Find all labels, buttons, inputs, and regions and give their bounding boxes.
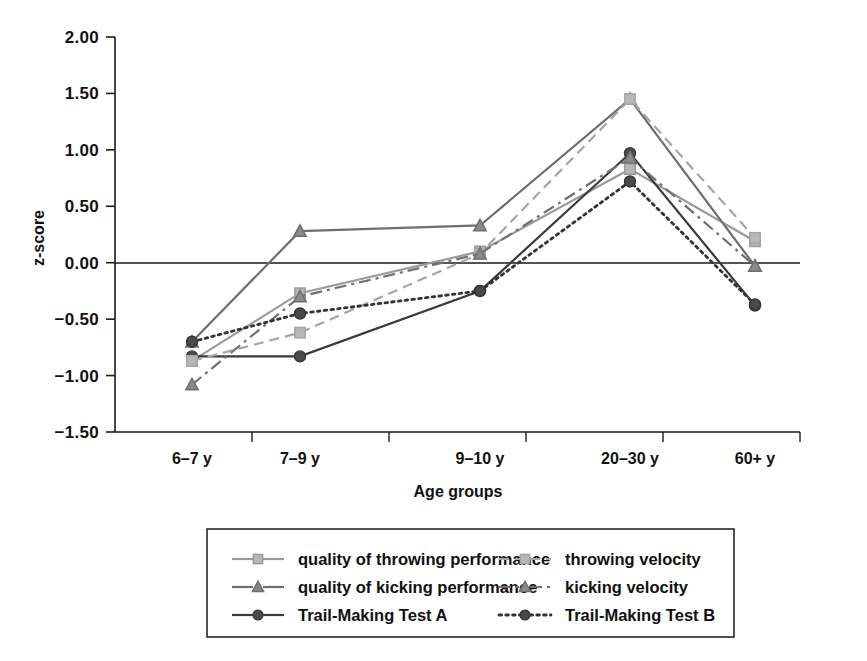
data-point-square bbox=[625, 94, 635, 104]
y-tick-label: 0.00 bbox=[65, 254, 99, 273]
series-line bbox=[192, 169, 755, 361]
data-point-circle bbox=[750, 299, 761, 310]
chart-plot-area: 2.001.501.000.500.00−0.50−1.00−1.50 6–7 … bbox=[0, 0, 867, 520]
data-point-square bbox=[520, 554, 529, 563]
z-score-line-chart: 2.001.501.000.500.00−0.50−1.00−1.50 6–7 … bbox=[0, 0, 867, 520]
data-point-circle bbox=[295, 351, 306, 362]
data-point-square bbox=[750, 233, 760, 243]
data-point-square bbox=[253, 554, 262, 563]
y-tick-label: 1.00 bbox=[65, 141, 99, 160]
y-axis-ticks bbox=[106, 37, 115, 432]
legend-label: throwing velocity bbox=[565, 550, 702, 568]
data-point-circle bbox=[253, 610, 263, 620]
figure-container: 2.001.501.000.500.00−0.50−1.00−1.50 6–7 … bbox=[0, 0, 867, 661]
legend-label: Trail-Making Test B bbox=[565, 606, 715, 624]
y-tick-label: 1.50 bbox=[65, 84, 99, 103]
legend-entries: quality of throwing performancethrowing … bbox=[232, 550, 715, 624]
y-tick-label: 0.50 bbox=[65, 197, 99, 216]
series-line bbox=[192, 158, 755, 385]
y-tick-label: 2.00 bbox=[65, 28, 99, 47]
legend-entry[interactable]: Trail-Making Test A bbox=[232, 606, 448, 624]
data-point-circle bbox=[187, 336, 198, 347]
legend-label: quality of throwing performance bbox=[298, 550, 550, 568]
x-tick-label: 9–10 y bbox=[456, 450, 505, 467]
data-point-square bbox=[295, 327, 305, 337]
series-5 bbox=[187, 176, 761, 347]
y-tick-label: −1.00 bbox=[54, 367, 99, 386]
x-tick-label: 20–30 y bbox=[601, 450, 659, 467]
y-tick-label: −1.50 bbox=[54, 423, 99, 442]
series-line bbox=[192, 181, 755, 341]
x-tick-label: 7–9 y bbox=[280, 450, 320, 467]
y-axis-title: z-score bbox=[30, 210, 47, 266]
data-point-circle bbox=[625, 176, 636, 187]
series-layer bbox=[186, 93, 761, 390]
series-4 bbox=[186, 152, 761, 390]
data-point-triangle bbox=[252, 581, 263, 591]
series-1 bbox=[186, 93, 761, 347]
legend-entry[interactable]: Trail-Making Test B bbox=[499, 606, 715, 624]
legend-entry[interactable]: quality of kicking performance bbox=[232, 578, 537, 596]
data-point-circle bbox=[475, 285, 486, 296]
legend-svg: quality of throwing performancethrowing … bbox=[0, 515, 867, 655]
legend-label: Trail-Making Test A bbox=[298, 606, 448, 624]
x-tick-label: 6–7 y bbox=[172, 450, 212, 467]
data-point-square bbox=[187, 356, 197, 366]
x-axis-ticks bbox=[252, 432, 800, 442]
x-axis-tick-labels: 6–7 y7–9 y9–10 y20–30 y60+ y bbox=[172, 450, 775, 467]
data-point-square bbox=[625, 164, 635, 174]
y-tick-label: −0.50 bbox=[54, 310, 99, 329]
series-0 bbox=[187, 164, 760, 366]
data-point-circle bbox=[520, 610, 530, 620]
x-tick-label: 60+ y bbox=[735, 450, 776, 467]
legend-label: kicking velocity bbox=[565, 578, 689, 596]
x-axis-title: Age groups bbox=[414, 483, 503, 500]
y-axis-tick-labels: 2.001.501.000.500.00−0.50−1.00−1.50 bbox=[54, 28, 99, 442]
series-line bbox=[192, 99, 755, 342]
data-point-circle bbox=[295, 308, 306, 319]
